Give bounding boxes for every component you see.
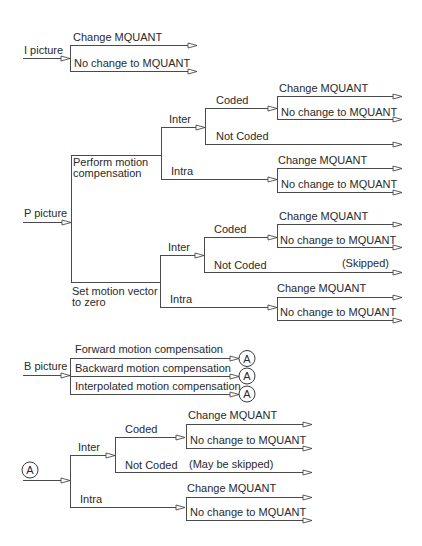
p-picture-label: P picture — [24, 207, 67, 219]
change-mquant-label: Change MQUANT — [279, 82, 369, 94]
forward-mc-label: Forward motion compensation — [75, 343, 223, 355]
arrow-icon — [393, 318, 402, 323]
arrow-icon — [61, 373, 70, 378]
change-mquant-label: Change MQUANT — [277, 282, 367, 294]
arrow-icon — [268, 235, 277, 240]
not-coded-label: Not Coded — [216, 130, 269, 142]
arrow-icon — [230, 356, 239, 361]
no-change-mquant-label: No change to MQUANT — [280, 306, 396, 318]
coded-label: Coded — [214, 223, 246, 235]
change-mquant-label: Change MQUANT — [187, 482, 277, 494]
zero-mv-label-line2: to zero — [72, 296, 106, 308]
arrow-icon — [176, 505, 185, 510]
arrow-icon — [393, 142, 402, 147]
b-picture-label: B picture — [24, 360, 67, 372]
arrow-icon — [195, 253, 204, 258]
arrow-icon — [268, 177, 277, 182]
arrow-icon — [393, 94, 402, 99]
arrow-icon — [393, 166, 402, 171]
perform-mc-label-line2: compensation — [73, 167, 142, 179]
change-mquant-label: Change MQUANT — [279, 210, 369, 222]
arrow-icon — [268, 305, 277, 310]
intra-label: Intra — [171, 165, 194, 177]
i-no-change-mquant-label: No change to MQUANT — [74, 57, 190, 69]
coded-label: Coded — [125, 423, 157, 435]
arrow-icon — [393, 270, 402, 275]
inter-label: Inter — [78, 441, 100, 453]
macroblock-type-decision-tree: I picture Change MQUANT No change to MQU… — [0, 0, 422, 546]
i-picture-tree: I picture Change MQUANT No change to MQU… — [23, 31, 197, 74]
skipped-note: (Skipped) — [342, 257, 389, 269]
perform-mc-branch: Perform motion compensation Inter Intra … — [71, 82, 402, 195]
intra-label: Intra — [170, 293, 193, 305]
no-change-mquant-label: No change to MQUANT — [190, 506, 306, 518]
arrow-icon — [196, 125, 205, 130]
arrow-icon — [62, 220, 71, 225]
backward-mc-label: Backward motion compensation — [75, 362, 231, 374]
b-picture-tree: B picture Forward motion compensation A … — [23, 343, 255, 402]
arrow-icon — [188, 69, 197, 74]
connector-a-label: A — [26, 464, 34, 476]
change-mquant-label: Change MQUANT — [188, 409, 278, 421]
intra-label: Intra — [80, 493, 103, 505]
arrow-icon — [61, 56, 70, 61]
arrow-icon — [303, 495, 312, 500]
arrow-icon — [393, 190, 402, 195]
arrow-icon — [393, 295, 402, 300]
connector-a-label: A — [243, 370, 251, 382]
arrow-icon — [303, 470, 312, 475]
inter-label: Inter — [169, 113, 191, 125]
arrow-icon — [188, 43, 197, 48]
arrow-icon — [303, 422, 312, 427]
arrow-icon — [268, 106, 277, 111]
arrow-icon — [393, 222, 402, 227]
arrow-icon — [230, 392, 239, 397]
coded-label: Coded — [216, 94, 248, 106]
arrow-icon — [303, 446, 312, 451]
i-picture-label: I picture — [24, 44, 63, 56]
may-be-skipped-note: (May be skipped) — [189, 458, 273, 470]
arrow-icon — [303, 518, 312, 523]
arrow-icon — [61, 478, 70, 483]
connector-a-tree: A Inter Intra Coded Not Coded (May be sk… — [22, 409, 312, 523]
arrow-icon — [106, 453, 115, 458]
connector-a-label: A — [243, 353, 251, 365]
p-picture-tree: P picture Perform motion compensation In… — [23, 82, 402, 323]
no-change-mquant-label: No change to MQUANT — [281, 178, 397, 190]
inter-label: Inter — [168, 241, 190, 253]
zero-mv-branch: Set motion vector to zero Inter Intra Co… — [71, 210, 402, 323]
no-change-mquant-label: No change to MQUANT — [190, 434, 306, 446]
change-mquant-label: Change MQUANT — [278, 154, 368, 166]
not-coded-label: Not Coded — [125, 459, 178, 471]
arrow-icon — [230, 374, 239, 379]
arrow-icon — [176, 435, 185, 440]
i-change-mquant-label: Change MQUANT — [73, 31, 163, 43]
interpolated-mc-label: Interpolated motion compensation — [75, 380, 241, 392]
not-coded-label: Not Coded — [214, 259, 267, 271]
connector-a-label: A — [243, 388, 251, 400]
no-change-mquant-label: No change to MQUANT — [281, 106, 397, 118]
no-change-mquant-label: No change to MQUANT — [280, 234, 396, 246]
